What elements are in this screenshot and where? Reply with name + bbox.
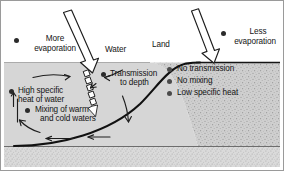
bullet-less-evaporation xyxy=(221,31,226,36)
bullet-no-mixing xyxy=(167,79,172,84)
bullet-transmission xyxy=(101,72,106,77)
land-region-label: Land xyxy=(152,40,170,49)
label-more-evaporation-line1: More xyxy=(28,34,82,43)
label-mixing-line1: Mixing of warm xyxy=(35,105,89,114)
bullet-no-transmission xyxy=(167,67,172,72)
label-high-specific-heat-line2: heat of water xyxy=(18,95,64,104)
label-high-specific-heat-line1: High specific xyxy=(18,86,63,95)
bullet-more-evaporation xyxy=(14,38,19,43)
label-more-evaporation-line2: evaporation xyxy=(23,44,87,53)
label-less-evaporation-line2: evaporation xyxy=(227,37,283,46)
water-region-label: Water xyxy=(105,45,126,54)
label-transmission-line2: to depth xyxy=(120,78,149,87)
bullet-high-specific-heat xyxy=(9,89,14,94)
label-less-evaporation-line1: Less xyxy=(236,27,280,36)
sediment-layer xyxy=(4,146,280,167)
bullet-low-specific-heat xyxy=(167,91,172,96)
label-no-mixing: No mixing xyxy=(177,76,213,85)
diagram-canvas: Water Land More evaporation Less evapora… xyxy=(0,0,284,171)
label-mixing-line2: and cold waters xyxy=(40,114,96,123)
label-low-specific-heat: Low specific heat xyxy=(177,88,238,97)
bullet-mixing xyxy=(25,108,30,113)
label-no-transmission: No transmission xyxy=(177,64,234,73)
label-transmission-line1: Transmission xyxy=(110,69,157,78)
